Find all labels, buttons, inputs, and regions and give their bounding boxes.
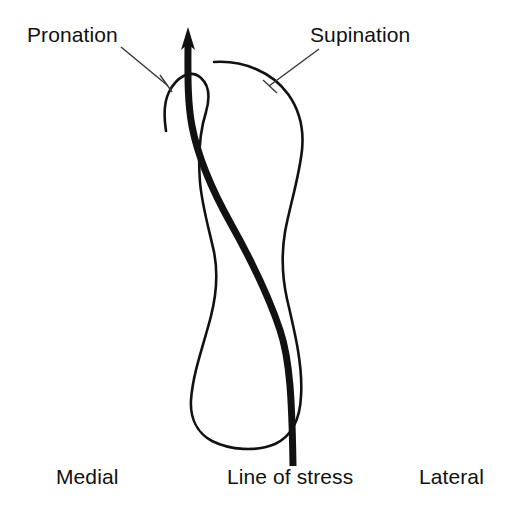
line-of-stress-path	[188, 40, 293, 466]
label-pronation: Pronation	[27, 24, 118, 45]
bone-outline-path	[164, 62, 302, 449]
figure-root: Pronation Supination Medial Line of stre…	[0, 0, 521, 509]
pronation-leader-line	[121, 47, 167, 85]
label-medial: Medial	[56, 466, 118, 487]
label-supination: Supination	[310, 24, 410, 45]
pronation-leader-tick	[160, 75, 172, 92]
label-lateral: Lateral	[419, 466, 484, 487]
supination-leader-line	[269, 49, 319, 86]
label-line-of-stress: Line of stress	[227, 466, 353, 487]
tibia-stress-diagram	[0, 0, 521, 509]
